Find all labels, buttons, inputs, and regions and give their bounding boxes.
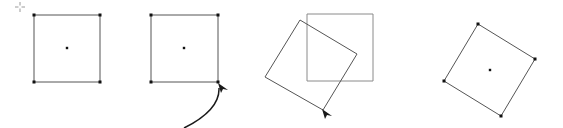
corner-handle [534,58,537,61]
rotate-diagram [0,0,563,128]
corner-handle [477,23,480,26]
cursor-arrow-icon [322,109,332,119]
rotated-square-shape [265,20,357,110]
corner-handle [443,80,446,83]
center-point [183,47,185,49]
rotation-arrow [184,88,219,128]
corner-handle [217,14,220,17]
original-square-ghost [307,14,373,81]
center-point [66,47,68,49]
corner-handle [150,81,153,84]
corner-handle [99,14,102,17]
corner-handle [150,14,153,17]
diagram-canvas [0,0,563,128]
corner-handle [500,115,503,118]
corner-handle [33,14,36,17]
center-point [489,69,491,71]
corner-handle [217,81,220,84]
corner-handle [99,81,102,84]
corner-handle [33,81,36,84]
